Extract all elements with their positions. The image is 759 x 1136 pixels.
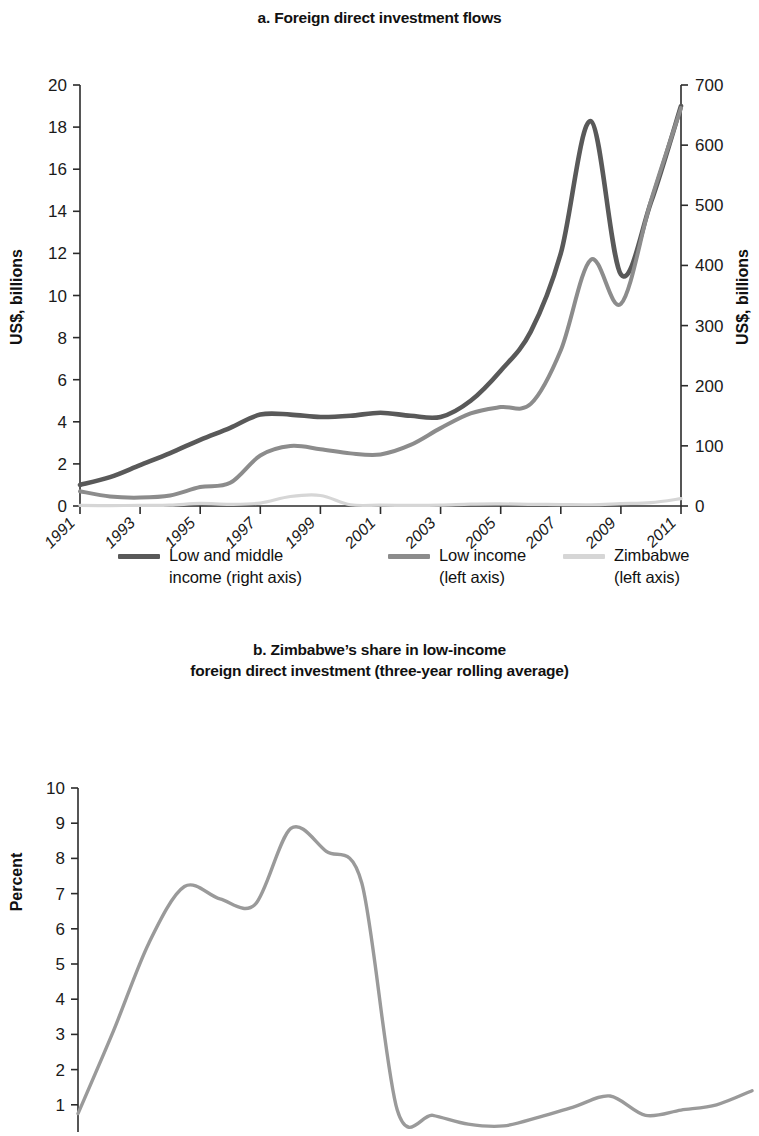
chart-b-y-axis-title: Percent bbox=[8, 852, 25, 911]
y-axis-tick-label: 2 bbox=[56, 1060, 65, 1079]
chart-a-title: a. Foreign direct investment flows bbox=[0, 0, 759, 29]
right-axis-tick-label: 700 bbox=[695, 76, 723, 95]
legend-label-line1: Low and middle bbox=[169, 546, 283, 564]
y-axis-tick-label: 4 bbox=[56, 990, 65, 1009]
left-axis-tick-label: 16 bbox=[48, 160, 67, 179]
right-axis-tick-label: 200 bbox=[695, 377, 723, 396]
left-axis-tick-label: 12 bbox=[48, 244, 67, 263]
y-axis-tick-label: 9 bbox=[56, 814, 65, 833]
left-axis-tick-label: 18 bbox=[48, 118, 67, 137]
left-axis-tick-label: 14 bbox=[48, 202, 67, 221]
chart-b-svg: Percent 012345678910 1992199319941995199… bbox=[0, 682, 759, 1132]
left-axis-tick-label: 8 bbox=[58, 329, 67, 348]
chart-a-left-axis-title: US$, billions bbox=[8, 249, 25, 345]
legend-swatch-icon bbox=[118, 554, 160, 559]
left-axis-tick-label: 4 bbox=[58, 413, 67, 432]
y-axis-tick-label: 10 bbox=[46, 779, 65, 798]
right-axis-tick-label: 500 bbox=[695, 196, 723, 215]
y-axis-tick-label: 0 bbox=[56, 1131, 65, 1132]
y-axis-tick-label: 3 bbox=[56, 1025, 65, 1044]
panel-zimbabwe-share: b. Zimbabwe’s share in low-income foreig… bbox=[0, 620, 759, 1136]
legend-label-line2: (left axis) bbox=[439, 568, 505, 586]
series-line-low-income bbox=[80, 108, 681, 497]
legend-label: Low income(left axis) bbox=[439, 545, 526, 589]
chart-b-title: b. Zimbabwe’s share in low-income foreig… bbox=[0, 620, 759, 682]
right-axis-tick-label: 0 bbox=[695, 497, 704, 516]
left-axis-tick-label: 6 bbox=[58, 371, 67, 390]
legend-item-low-and-middle-income[interactable]: Low and middleincome (right axis) bbox=[118, 545, 388, 589]
legend-label: Low and middleincome (right axis) bbox=[169, 545, 302, 589]
left-axis-tick-label: 0 bbox=[58, 497, 67, 516]
chart-a-right-axis-title: US$, billions bbox=[734, 249, 751, 345]
y-axis-tick-label: 7 bbox=[56, 884, 65, 903]
y-axis-tick-label: 8 bbox=[56, 849, 65, 868]
chart-b-title-line2: foreign direct investment (three-year ro… bbox=[190, 662, 569, 679]
right-axis-tick-label: 300 bbox=[695, 316, 723, 335]
panel-foreign-direct-investment-flows: a. Foreign direct investment flows US$, … bbox=[0, 0, 759, 620]
series-line-zimbabwe-share bbox=[78, 826, 752, 1127]
left-axis-tick-label: 20 bbox=[48, 76, 67, 95]
legend-label-line1: Zimbabwe bbox=[614, 546, 689, 564]
legend-label-line2: income (right axis) bbox=[169, 568, 302, 586]
legend-label: Zimbabwe(left axis) bbox=[614, 545, 689, 589]
chart-a-plot: US$, billions US$, billions 024681012141… bbox=[0, 29, 759, 569]
chart-b-title-line1: b. Zimbabwe’s share in low-income bbox=[253, 641, 506, 658]
y-axis-tick-label: 1 bbox=[56, 1096, 65, 1115]
legend-swatch-icon bbox=[388, 554, 430, 559]
chart-b-plot: Percent 012345678910 1992199319941995199… bbox=[0, 682, 759, 1132]
chart-a-series-group bbox=[80, 106, 681, 506]
right-axis-tick-label: 400 bbox=[695, 256, 723, 275]
chart-b-y-axis: 012345678910 bbox=[46, 779, 78, 1132]
right-axis-tick-label: 600 bbox=[695, 136, 723, 155]
chart-a-left-axis: 02468101214161820 bbox=[48, 76, 80, 516]
right-axis-tick-label: 100 bbox=[695, 437, 723, 456]
legend-label-line2: (left axis) bbox=[614, 568, 680, 586]
legend-item-low-income[interactable]: Low income(left axis) bbox=[388, 545, 563, 589]
legend-swatch-icon bbox=[563, 554, 605, 559]
series-line-low-and-middle-income bbox=[80, 106, 681, 485]
y-axis-tick-label: 5 bbox=[56, 955, 65, 974]
chart-a-legend: Low and middleincome (right axis) Low in… bbox=[0, 545, 759, 589]
left-axis-tick-label: 10 bbox=[48, 286, 67, 305]
chart-b-series-group bbox=[78, 826, 752, 1127]
left-axis-tick-label: 2 bbox=[58, 455, 67, 474]
legend-item-zimbabwe[interactable]: Zimbabwe(left axis) bbox=[563, 545, 723, 589]
chart-a-right-axis: 0100200300400500600700 bbox=[681, 76, 723, 516]
chart-a-svg: US$, billions US$, billions 024681012141… bbox=[0, 29, 759, 569]
legend-label-line1: Low income bbox=[439, 546, 526, 564]
y-axis-tick-label: 6 bbox=[56, 920, 65, 939]
